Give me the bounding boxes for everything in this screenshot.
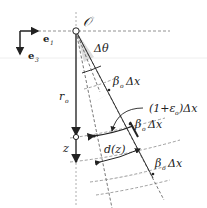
svg-text:)Δx: )Δx: [178, 102, 198, 115]
svg-text:Δx: Δx: [167, 157, 183, 170]
e1-label: e: [43, 33, 49, 44]
svg-text:o: o: [65, 97, 69, 104]
svg-text:Δx: Δx: [147, 118, 163, 131]
beta-dx-label-2: β: [134, 118, 141, 131]
svg-text:o: o: [142, 125, 146, 132]
svg-text:o: o: [162, 164, 166, 171]
svg-text:1: 1: [50, 39, 54, 46]
beta-dx-label-3: β: [154, 157, 161, 170]
distance-label: d(z): [104, 143, 125, 156]
svg-text:3: 3: [35, 56, 39, 63]
svg-text:Δx: Δx: [125, 75, 141, 88]
svg-text:o: o: [120, 82, 124, 89]
beta-dx-label-1: β: [112, 75, 119, 88]
origin-point: [73, 28, 79, 34]
origin-label: 𝒪: [83, 14, 95, 29]
stretch-label: (1+ε: [149, 102, 176, 115]
angle-label: Δθ: [93, 42, 109, 55]
e3-label: e: [28, 50, 34, 61]
beam-deformation-diagram: e 1 e 3 𝒪 Δθ r o z β o Δx (1+ε o )Δ: [0, 0, 207, 208]
depth-label: z: [62, 142, 69, 155]
